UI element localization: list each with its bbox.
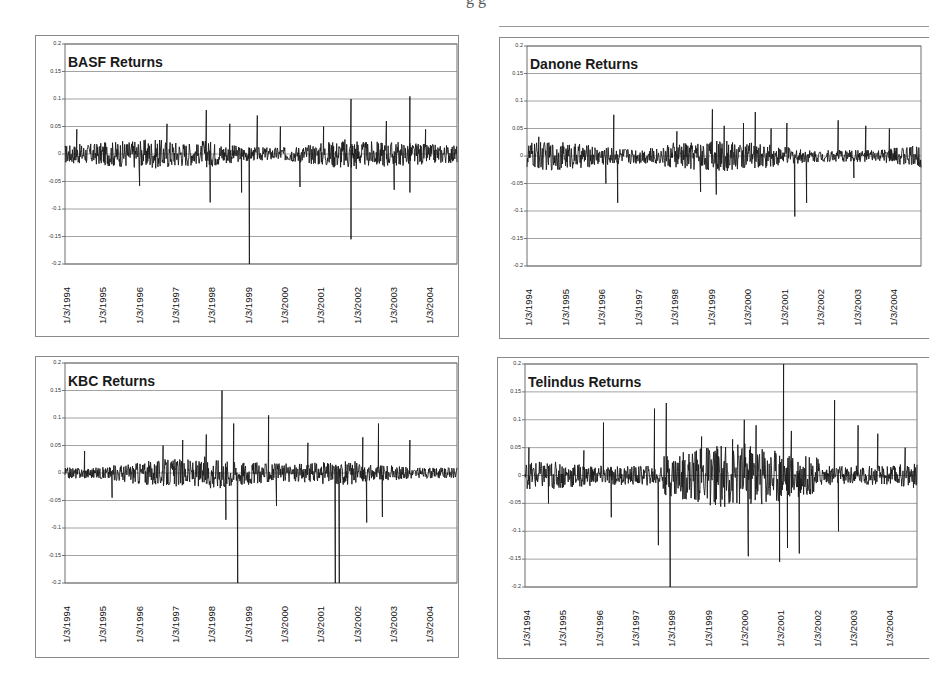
x-tick-label: 1/3/1999 — [243, 606, 254, 643]
x-tick-label: 1/3/2004 — [888, 289, 899, 326]
chart-panel-kbc-returns: 0.20.150.10.050-0.05-0.1-0.15-0.2KBC Ret… — [35, 356, 459, 658]
chart-title: BASF Returns — [68, 54, 163, 70]
y-tick-label: -0.05 — [37, 178, 61, 184]
y-tick-label: 0.15 — [499, 70, 523, 76]
y-tick-label: 0.15 — [37, 68, 61, 74]
x-tick-label: 1/3/2001 — [779, 289, 790, 326]
y-tick-label: 0.15 — [37, 387, 61, 393]
y-tick-label: -0.1 — [37, 205, 61, 211]
x-tick-label: 1/3/1996 — [594, 610, 605, 647]
x-tick-label: 1/3/1998 — [669, 289, 680, 326]
y-tick-label: 0.1 — [499, 97, 523, 103]
y-tick-label: -0.2 — [499, 262, 523, 268]
x-tick-label: 1/3/1994 — [521, 610, 532, 647]
x-tick-label: 1/3/1999 — [706, 289, 717, 326]
x-tick-label: 1/3/2004 — [884, 610, 895, 647]
y-tick-label: 0.1 — [37, 414, 61, 420]
x-tick-label: 1/3/2000 — [739, 610, 750, 647]
returns-series-line — [65, 391, 457, 584]
y-tick-label: -0.2 — [37, 260, 61, 266]
x-tick-label: 1/3/2003 — [848, 610, 859, 647]
chart-title: Danone Returns — [530, 56, 638, 72]
y-tick-label: -0.1 — [37, 524, 61, 530]
y-tick-label: 0 — [499, 152, 523, 158]
x-tick-label: 1/3/1998 — [206, 287, 217, 324]
x-tick-label: 1/3/1994 — [523, 289, 534, 326]
x-tick-label: 1/3/1994 — [61, 606, 72, 643]
y-tick-label: -0.05 — [499, 180, 523, 186]
x-tick-label: 1/3/1997 — [170, 287, 181, 324]
x-tick-label: 1/3/1995 — [560, 289, 571, 326]
x-tick-label: 1/3/1999 — [703, 610, 714, 647]
x-tick-label: 1/3/2004 — [424, 606, 435, 643]
x-tick-label: 1/3/2001 — [315, 287, 326, 324]
x-tick-label: 1/3/1999 — [243, 287, 254, 324]
x-tick-label: 1/3/2003 — [852, 289, 863, 326]
x-tick-label: 1/3/1996 — [596, 289, 607, 326]
y-tick-label: 0.2 — [37, 40, 61, 46]
y-tick-label: 0.05 — [499, 125, 523, 131]
x-tick-label: 1/3/1995 — [97, 287, 108, 324]
x-tick-label: 1/3/2000 — [742, 289, 753, 326]
y-tick-label: 0.1 — [37, 95, 61, 101]
returns-series-line — [65, 96, 457, 264]
y-tick-label: 0.05 — [37, 123, 61, 129]
returns-series-line — [527, 109, 921, 216]
chart-panel-basf-returns: 0.20.150.10.050-0.05-0.1-0.15-0.2BASF Re… — [35, 35, 459, 337]
x-tick-label: 1/3/1995 — [557, 610, 568, 647]
y-tick-label: 0.05 — [37, 442, 61, 448]
x-tick-label: 1/3/2001 — [315, 606, 326, 643]
y-tick-label: -0.15 — [37, 233, 61, 239]
x-tick-label: 1/3/2003 — [388, 606, 399, 643]
x-tick-label: 1/3/2002 — [812, 610, 823, 647]
chart-title: KBC Returns — [68, 373, 155, 389]
y-tick-label: -0.15 — [499, 235, 523, 241]
x-tick-label: 1/3/2002 — [352, 606, 363, 643]
y-tick-label: -0.15 — [37, 552, 61, 558]
x-tick-label: 1/3/2002 — [352, 287, 363, 324]
y-tick-label: 0.15 — [497, 388, 521, 394]
y-tick-label: 0.2 — [497, 360, 521, 366]
x-tick-label: 1/3/2003 — [388, 287, 399, 324]
y-tick-label: 0.1 — [497, 416, 521, 422]
y-tick-label: 0 — [497, 472, 521, 478]
y-tick-label: -0.2 — [37, 579, 61, 585]
chart-title: Telindus Returns — [528, 374, 641, 390]
x-tick-label: 1/3/2000 — [279, 287, 290, 324]
x-tick-label: 1/3/2002 — [815, 289, 826, 326]
x-tick-label: 1/3/1996 — [134, 606, 145, 643]
top-divider-right — [499, 26, 929, 27]
x-tick-label: 1/3/1997 — [633, 289, 644, 326]
y-tick-label: -0.1 — [497, 527, 521, 533]
y-tick-label: 0 — [37, 150, 61, 156]
y-tick-label: 0.2 — [499, 42, 523, 48]
y-tick-label: -0.05 — [37, 497, 61, 503]
x-tick-label: 1/3/1994 — [61, 287, 72, 324]
y-tick-label: -0.05 — [497, 499, 521, 505]
x-tick-label: 1/3/1997 — [630, 610, 641, 647]
x-tick-label: 1/3/1998 — [206, 606, 217, 643]
y-tick-label: 0.2 — [37, 359, 61, 365]
chart-panel-telindus-returns: 0.20.150.10.050-0.05-0.1-0.15-0.2Telindu… — [497, 357, 929, 659]
x-tick-label: 1/3/2001 — [775, 610, 786, 647]
y-tick-label: -0.2 — [497, 583, 521, 589]
x-tick-label: 1/3/1995 — [97, 606, 108, 643]
x-tick-label: 1/3/2004 — [424, 287, 435, 324]
y-tick-label: 0 — [37, 469, 61, 475]
x-tick-label: 1/3/1998 — [666, 610, 677, 647]
chart-panel-danone-returns: 0.20.150.10.050-0.05-0.1-0.15-0.2Danone … — [499, 37, 929, 339]
figure-caption-fragment: g g — [0, 0, 952, 8]
y-tick-label: -0.1 — [499, 207, 523, 213]
y-tick-label: -0.15 — [497, 555, 521, 561]
x-tick-label: 1/3/1996 — [134, 287, 145, 324]
x-tick-label: 1/3/2000 — [279, 606, 290, 643]
y-tick-label: 0.05 — [497, 444, 521, 450]
x-tick-label: 1/3/1997 — [170, 606, 181, 643]
